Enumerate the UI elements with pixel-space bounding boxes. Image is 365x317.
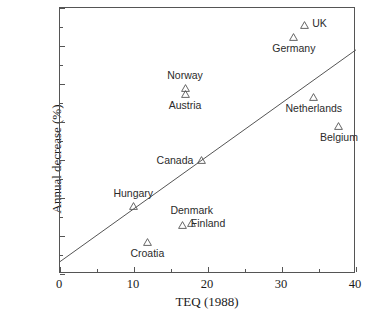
- data-point-label-netherlands: Netherlands: [286, 103, 343, 114]
- data-point-label-canada: Canada: [157, 155, 194, 166]
- data-point-label-finland: Finland: [191, 217, 225, 228]
- data-point-label-uk: UK: [312, 18, 327, 29]
- y-tick-major: [60, 198, 65, 199]
- x-tick-major: [208, 267, 209, 272]
- data-point-label-austria: Austria: [169, 100, 202, 111]
- x-tick-label: 20: [201, 277, 214, 292]
- data-point-label-denmark: Denmark: [170, 205, 213, 216]
- plot-area: UKGermanyNorwayAustriaNetherlandsBelgium…: [59, 7, 355, 273]
- y-tick-minor: [60, 27, 63, 28]
- y-tick-minor: [60, 179, 63, 180]
- x-tick-minor: [97, 269, 98, 272]
- x-tick-minor: [171, 269, 172, 272]
- x-tick-major: [134, 267, 135, 272]
- x-tick-major: [282, 267, 283, 272]
- y-tick-major: [60, 160, 65, 161]
- x-tick-minor: [245, 269, 246, 272]
- data-point-label-belgium: Belgium: [320, 132, 358, 143]
- x-tick-label: 10: [127, 277, 140, 292]
- data-point-label-norway: Norway: [167, 70, 203, 81]
- x-tick-major: [356, 267, 357, 272]
- data-point-label-germany: Germany: [272, 43, 315, 54]
- y-tick-minor: [60, 141, 63, 142]
- y-tick-major: [60, 274, 65, 275]
- y-tick-minor: [60, 65, 63, 66]
- x-axis-title: TEQ (1988): [59, 294, 355, 310]
- y-tick-major: [60, 8, 65, 9]
- scatter-chart-figure: Annual decrease (%) TEQ (1988) UKGermany…: [0, 0, 365, 317]
- y-tick-major: [60, 46, 65, 47]
- x-tick-major: [60, 267, 61, 272]
- x-tick-label: 30: [275, 277, 288, 292]
- y-tick-minor: [60, 217, 63, 218]
- y-tick-major: [60, 236, 65, 237]
- x-tick-label: 40: [349, 277, 362, 292]
- x-tick-label: 0: [56, 277, 62, 292]
- data-point-label-hungary: Hungary: [113, 188, 153, 199]
- y-tick-major: [60, 84, 65, 85]
- y-tick-minor: [60, 103, 63, 104]
- y-tick-minor: [60, 255, 63, 256]
- x-tick-minor: [319, 269, 320, 272]
- y-tick-major: [60, 122, 65, 123]
- data-point-label-croatia: Croatia: [130, 248, 164, 259]
